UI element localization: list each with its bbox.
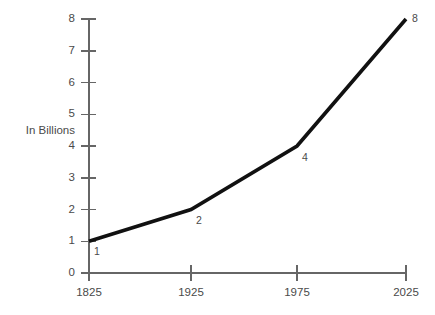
y-tick-label-5: 5: [69, 107, 75, 119]
data-label-1975: 4: [302, 151, 308, 163]
y-tick-label-4: 4: [69, 139, 76, 151]
y-tick-label-0: 0: [69, 266, 75, 278]
x-tick-label-1825: 1825: [76, 286, 102, 298]
y-tick-label-1: 1: [69, 234, 75, 246]
data-label-1825: 1: [94, 245, 100, 257]
data-label-1925: 2: [196, 214, 202, 226]
line-chart: 8 7 6 5 4 3 2 1 0 In Billions 1825 1925 …: [0, 0, 435, 315]
chart-container: 8 7 6 5 4 3 2 1 0 In Billions 1825 1925 …: [0, 0, 435, 315]
y-tick-label-8: 8: [69, 12, 75, 24]
y-tick-label-6: 6: [69, 76, 75, 88]
y-axis-title: In Billions: [26, 124, 75, 136]
data-series-line: [89, 19, 406, 241]
y-tick-label-3: 3: [69, 171, 75, 183]
x-tick-label-2025: 2025: [393, 286, 419, 298]
y-tick-label-2: 2: [69, 203, 75, 215]
y-tick-label-7: 7: [69, 44, 75, 56]
data-label-2025: 8: [412, 12, 418, 24]
x-tick-label-1975: 1975: [284, 286, 310, 298]
x-tick-label-1925: 1925: [178, 286, 204, 298]
